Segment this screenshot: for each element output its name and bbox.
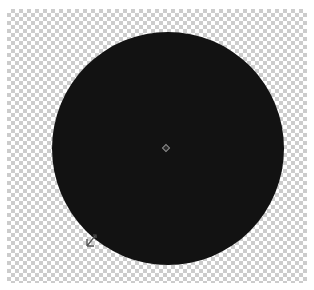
resize-cursor-icon <box>84 232 98 248</box>
